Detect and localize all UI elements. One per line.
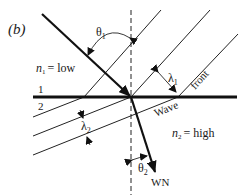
lambda1-label: λ1 xyxy=(168,71,178,87)
theta2-label: θ2 xyxy=(138,161,148,177)
theta2-arc xyxy=(132,156,147,160)
incident-wavefront-3 xyxy=(178,34,238,97)
wave-normal-label: WN xyxy=(151,176,169,188)
panel-label: (b) xyxy=(8,21,26,38)
n1-label: n1= low xyxy=(36,61,76,76)
wave-front-label-front: front xyxy=(188,67,211,91)
incident-ray xyxy=(42,14,130,96)
n2-label: n2= high xyxy=(172,126,215,141)
theta1-label: θ1 xyxy=(96,25,106,41)
lambda2-label: λ2 xyxy=(81,119,91,135)
wave-front-label-wave: Wave xyxy=(152,98,180,118)
incident-wavefront-1 xyxy=(84,10,161,97)
region-1-label: 1 xyxy=(38,83,44,95)
refraction-diagram: (b) θ1 n1= low 1 2 λ1 front Wave λ2 n2= … xyxy=(0,0,249,195)
lambda2-arrow-bottom xyxy=(87,137,90,145)
region-2-label: 2 xyxy=(38,100,44,112)
